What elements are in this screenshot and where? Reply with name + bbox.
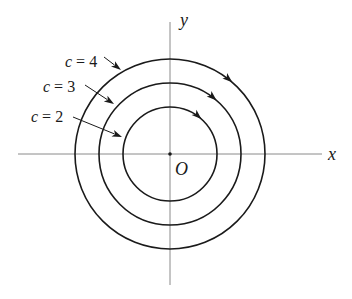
origin-label: O [175, 159, 188, 179]
curve-label-c2: c = 2 [31, 108, 63, 125]
y-axis-label: y [178, 10, 188, 30]
level-curves-diagram: x y c = 2c = 3c = 4 O [0, 0, 352, 299]
curve-labels: c = 2c = 3c = 4 [31, 53, 97, 125]
arrowhead-icon [222, 73, 232, 82]
pointer-arrowhead-icon [104, 96, 114, 104]
pointer-line [104, 57, 115, 65]
pointer-arrowhead-icon [111, 61, 121, 70]
origin-point [168, 152, 172, 156]
curve-label-c4: c = 4 [65, 53, 97, 70]
direction-arrowheads [192, 73, 233, 119]
curve-label-c3: c = 3 [43, 78, 75, 95]
x-axis-label: x [327, 144, 336, 164]
coordinate-axes: x y [18, 10, 336, 285]
arrowhead-icon [192, 110, 202, 119]
arrowhead-icon [207, 91, 217, 100]
pointer-line [85, 85, 107, 100]
